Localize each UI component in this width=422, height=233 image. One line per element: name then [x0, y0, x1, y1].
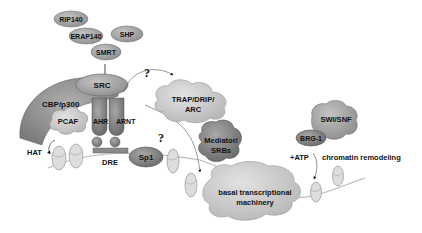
- svg-text:machinery: machinery: [236, 198, 274, 207]
- corepressor-smrt: SMRT: [91, 44, 121, 60]
- svg-text:TRAP/DRIP/: TRAP/DRIP/: [172, 95, 215, 104]
- svg-text:SHP: SHP: [120, 31, 135, 38]
- src-coactivator: SRC: [76, 74, 128, 96]
- pcaf-protein: PCAF: [50, 107, 88, 134]
- corepressor-erap140: ERAP140: [69, 28, 103, 44]
- svg-text:Mediator/: Mediator/: [204, 136, 238, 145]
- svg-text:ARC: ARC: [185, 105, 202, 114]
- nucleosome: [52, 146, 66, 170]
- nucleosome: [311, 182, 322, 202]
- ahr-signaling-diagram: RIP140 ERAP140 SHP SMRT CBP/p300 AHR ARN…: [0, 0, 422, 233]
- nucleosome: [69, 144, 83, 168]
- nucleosome: [167, 149, 179, 173]
- svg-text:SRBs: SRBs: [211, 146, 231, 155]
- ahr-protein: AHR: [92, 98, 108, 147]
- sp1-factor: Sp1: [129, 147, 163, 167]
- basal-transcriptional-machinery: basal transcriptional machinery: [203, 162, 301, 221]
- svg-text:basal transcriptional: basal transcriptional: [218, 188, 291, 197]
- svg-text:DRE: DRE: [102, 158, 118, 167]
- nucleosome: [333, 166, 344, 186]
- corepressor-rip140: RIP140: [54, 11, 88, 27]
- nucleosome: [185, 173, 197, 197]
- question-mark: ?: [158, 131, 164, 145]
- question-mark: ?: [144, 66, 150, 80]
- svg-text:AHR: AHR: [93, 118, 108, 125]
- svg-text:BRG-1: BRG-1: [300, 135, 322, 142]
- mediator-srbs-complex: Mediator/ SRBs: [199, 120, 242, 162]
- svg-text:RIP140: RIP140: [59, 16, 82, 23]
- svg-text:Sp1: Sp1: [139, 153, 154, 162]
- svg-text:ARNT: ARNT: [116, 118, 136, 125]
- svg-text:SMRT: SMRT: [96, 49, 117, 56]
- corepressor-shp: SHP: [111, 26, 143, 42]
- arnt-protein: ARNT: [109, 98, 136, 147]
- arrow-atp: [313, 153, 317, 179]
- svg-text:ERAP140: ERAP140: [70, 33, 101, 40]
- atp-label: +ATP: [290, 153, 309, 162]
- dre-element: DRE: [93, 148, 128, 167]
- svg-text:PCAF: PCAF: [58, 117, 79, 126]
- trap-drip-arc-complex: TRAP/DRIP/ ARC: [155, 80, 226, 123]
- svg-text:SRC: SRC: [94, 81, 111, 90]
- svg-text:SWI/SNF: SWI/SNF: [320, 115, 352, 124]
- svg-text:HAT: HAT: [27, 148, 42, 157]
- chromatin-remodeling-label: chromatin remodeling: [322, 153, 401, 162]
- brg1-subunit: BRG-1: [296, 130, 326, 146]
